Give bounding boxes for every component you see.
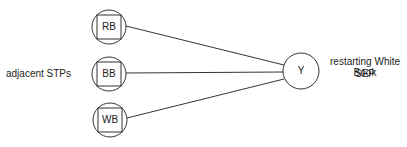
node-label-bb: BB xyxy=(97,68,121,79)
edge-rb-y xyxy=(126,26,284,65)
node-label-rb: RB xyxy=(97,21,121,32)
left-label: adjacent STPs xyxy=(6,68,71,79)
edge-bb-y xyxy=(126,72,283,73)
edge-wb-y xyxy=(127,79,284,118)
node-label-wb: WB xyxy=(98,114,122,125)
node-label-y: Y xyxy=(289,65,313,76)
right-label-line2: SEP xyxy=(320,68,407,79)
